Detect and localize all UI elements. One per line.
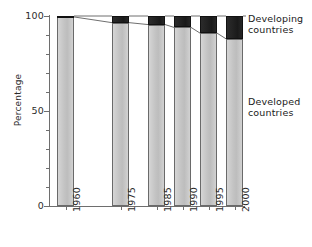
- y-tick-minor: [46, 54, 49, 55]
- y-tick-minor: [46, 187, 49, 188]
- bar-segment-developing[interactable]: [174, 16, 191, 27]
- bar-segment-developed[interactable]: [226, 39, 243, 206]
- y-tick-major: [44, 111, 49, 112]
- x-tick: [157, 206, 158, 210]
- y-tick-minor: [46, 92, 49, 93]
- x-tick-label: 1985: [162, 187, 173, 212]
- bar-segment-developed[interactable]: [57, 17, 74, 206]
- y-axis-title: Percentage: [13, 60, 23, 140]
- y-tick-minor: [46, 35, 49, 36]
- bar-group[interactable]: [200, 16, 217, 206]
- x-tick-label: 1975: [126, 187, 137, 212]
- y-tick-minor: [46, 168, 49, 169]
- leader-line-developed: [217, 33, 226, 39]
- x-tick-label: 1990: [188, 187, 199, 212]
- y-tick-label: 50: [4, 105, 44, 116]
- x-tick: [183, 206, 184, 210]
- x-tick: [209, 206, 210, 210]
- x-tick-label: 1995: [214, 187, 225, 212]
- bar-segment-developing[interactable]: [226, 16, 243, 39]
- bar-group[interactable]: [112, 16, 129, 206]
- chart-root: Percentage 100500 1960197519851990199520…: [0, 0, 312, 247]
- y-tick-minor: [46, 73, 49, 74]
- legend-label-developing: Developing countries: [248, 13, 303, 35]
- bar-group[interactable]: [148, 16, 165, 206]
- y-tick-label: 100: [4, 10, 44, 21]
- y-tick-label: 0: [4, 200, 44, 211]
- bar-group[interactable]: [57, 16, 74, 206]
- bar-segment-developed[interactable]: [112, 23, 129, 206]
- bar-segment-developing[interactable]: [200, 16, 217, 33]
- y-tick-major: [44, 16, 49, 17]
- leader-line-developed: [74, 17, 112, 23]
- y-tick-minor: [46, 130, 49, 131]
- bar-group[interactable]: [174, 16, 191, 206]
- bar-segment-developed[interactable]: [200, 33, 217, 206]
- bar-segment-developed[interactable]: [174, 27, 191, 206]
- x-tick-label: 1960: [71, 187, 82, 212]
- leader-line-developed: [165, 25, 174, 28]
- y-axis-line: [49, 15, 50, 207]
- bar-segment-developing[interactable]: [148, 16, 165, 25]
- bar-group[interactable]: [226, 16, 243, 206]
- bar-segment-developing[interactable]: [112, 16, 129, 23]
- bar-segment-developed[interactable]: [148, 25, 165, 206]
- bar-segment-developing[interactable]: [57, 16, 74, 18]
- leader-line-developed: [191, 27, 200, 33]
- x-tick-label: 2000: [240, 187, 251, 212]
- legend-label-developed: Developed countries: [248, 96, 300, 118]
- y-tick-major: [44, 206, 49, 207]
- x-tick: [121, 206, 122, 210]
- x-tick: [235, 206, 236, 210]
- leader-line-developed: [129, 23, 148, 25]
- y-tick-minor: [46, 149, 49, 150]
- x-tick: [66, 206, 67, 210]
